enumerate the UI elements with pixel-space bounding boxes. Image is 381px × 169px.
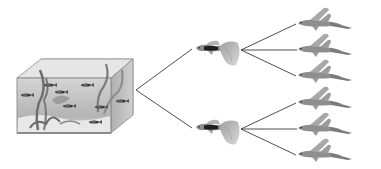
fish-icon bbox=[298, 113, 352, 136]
fish-icon bbox=[298, 87, 352, 110]
offspring-3 bbox=[298, 60, 352, 83]
edge-parent-1-offspring-1 bbox=[241, 24, 296, 50]
edge-parent-2-offspring-6 bbox=[241, 129, 296, 155]
edge-aquarium-parent-1 bbox=[136, 49, 192, 90]
fish-icon bbox=[298, 139, 352, 162]
edge-aquarium-parent-2 bbox=[136, 90, 192, 128]
diagram-canvas bbox=[0, 0, 381, 169]
offspring-6 bbox=[298, 139, 352, 162]
fish-icon bbox=[298, 34, 352, 57]
parent-guppy-1 bbox=[196, 41, 240, 66]
fish-icon bbox=[298, 8, 352, 31]
guppy-icon bbox=[196, 120, 240, 145]
edge-parent-1-offspring-3 bbox=[241, 50, 296, 76]
offspring-1 bbox=[298, 8, 352, 31]
parent-guppy-2 bbox=[196, 120, 240, 145]
guppy-icon bbox=[196, 41, 240, 66]
offspring-5 bbox=[298, 113, 352, 136]
offspring-2 bbox=[298, 34, 352, 57]
fish-icon bbox=[298, 60, 352, 83]
aquarium-icon bbox=[17, 59, 133, 133]
edge-parent-2-offspring-4 bbox=[241, 103, 296, 129]
breeding-diagram bbox=[0, 0, 381, 169]
offspring-4 bbox=[298, 87, 352, 110]
